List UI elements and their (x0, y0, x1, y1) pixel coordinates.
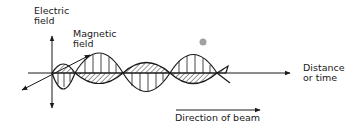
stray-dot (200, 39, 207, 46)
em-wave-diagram (0, 0, 353, 132)
